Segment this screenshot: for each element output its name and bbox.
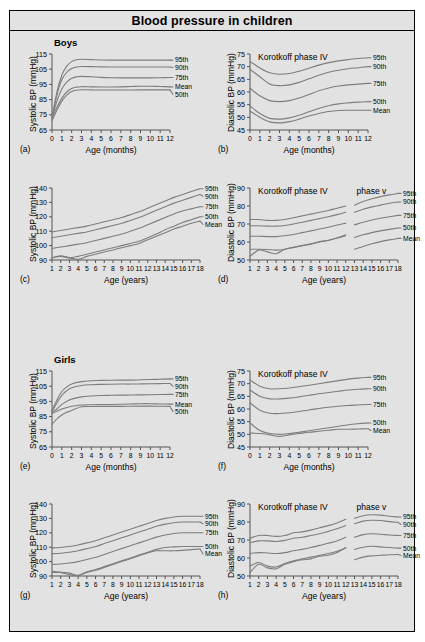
legend-label-95th: 95th: [403, 190, 416, 197]
curve-mean: [52, 404, 170, 414]
svg-text:10: 10: [127, 581, 135, 588]
svg-text:70: 70: [237, 62, 245, 71]
svg-text:70: 70: [237, 536, 245, 545]
svg-text:7: 7: [317, 135, 321, 142]
svg-text:17: 17: [188, 581, 196, 588]
plot-area-d: 506070809012345678910111213141516171895t…: [216, 183, 425, 282]
svg-text:10: 10: [345, 135, 353, 142]
svg-text:100: 100: [35, 241, 47, 250]
svg-text:12: 12: [166, 452, 174, 459]
plot-area-h: 506070809012345678910111213141516171895t…: [216, 499, 425, 598]
svg-text:17: 17: [188, 265, 196, 272]
svg-text:6: 6: [94, 581, 98, 588]
legend-label-mean: Mean: [373, 107, 390, 114]
annotation-korotkoff: Korotkoff phase IV: [258, 186, 328, 196]
svg-text:45: 45: [237, 443, 245, 452]
svg-text:6: 6: [292, 581, 296, 588]
panel-label-d: (d): [218, 274, 228, 284]
svg-text:2: 2: [70, 452, 74, 459]
curve-75th: [250, 403, 368, 414]
svg-text:8: 8: [129, 135, 133, 142]
svg-text:75: 75: [39, 110, 47, 119]
curve-phase5-75th: [354, 215, 398, 225]
svg-text:9: 9: [337, 135, 341, 142]
plot-area-g: 9010011012013014012345678910111213141516…: [18, 499, 246, 598]
svg-text:11: 11: [355, 135, 362, 142]
svg-text:65: 65: [39, 126, 47, 135]
svg-text:13: 13: [153, 265, 161, 272]
legend-label-50th: 50th: [403, 224, 416, 231]
svg-text:75: 75: [39, 427, 47, 436]
curve-95th: [52, 189, 200, 232]
svg-text:3: 3: [278, 135, 282, 142]
svg-text:12: 12: [144, 265, 152, 272]
svg-text:60: 60: [237, 238, 245, 247]
svg-text:50: 50: [237, 256, 245, 265]
svg-text:140: 140: [35, 500, 47, 509]
chart-panel-b: Diastolic BP (mmHg)455055606570750123456…: [216, 49, 414, 166]
svg-text:7: 7: [300, 265, 304, 272]
svg-text:65: 65: [39, 443, 47, 452]
chart-panel-d: Diastolic BP (mmHg)506070809012345678910…: [216, 183, 425, 296]
svg-text:18: 18: [394, 265, 402, 272]
svg-text:85: 85: [39, 95, 47, 104]
panel-label-h: (h): [218, 590, 228, 600]
panel-label-c: (c): [20, 274, 30, 284]
svg-text:2: 2: [268, 135, 272, 142]
svg-text:14: 14: [359, 265, 367, 272]
legend-label-95th: 95th: [403, 513, 416, 520]
curve-phase4-50th: [250, 548, 346, 567]
curve-95th: [52, 516, 200, 548]
panel-label-e: (e): [20, 461, 30, 471]
svg-text:4: 4: [274, 265, 278, 272]
svg-text:1: 1: [60, 135, 64, 142]
legend-label-95th: 95th: [175, 56, 188, 63]
svg-text:6: 6: [109, 452, 113, 459]
curve-phase5-mean: [354, 554, 398, 559]
x-axis-label: Age (years): [250, 591, 398, 601]
curve-90th: [52, 522, 200, 554]
x-axis-label: Age (months): [250, 462, 368, 472]
svg-text:6: 6: [307, 135, 311, 142]
svg-text:2: 2: [268, 452, 272, 459]
svg-text:4: 4: [89, 452, 93, 459]
x-axis-label: Age (years): [52, 591, 200, 601]
legend-label-90th: 90th: [373, 385, 386, 392]
legend-label-90th: 90th: [175, 64, 188, 71]
svg-text:8: 8: [129, 452, 133, 459]
svg-text:15: 15: [170, 265, 178, 272]
svg-text:140: 140: [35, 184, 47, 193]
section-heading-girls: Girls: [54, 354, 76, 365]
svg-text:4: 4: [287, 452, 291, 459]
curve-50th: [52, 406, 170, 424]
curve-90th: [250, 389, 368, 399]
svg-text:1: 1: [50, 265, 54, 272]
svg-text:3: 3: [68, 265, 72, 272]
svg-text:115: 115: [36, 367, 47, 376]
svg-text:50: 50: [237, 430, 245, 439]
svg-text:6: 6: [109, 135, 113, 142]
svg-text:90: 90: [237, 184, 245, 193]
legend-label-75th: 75th: [175, 74, 188, 81]
chart-panel-e: Systolic BP (mmHg)6575859510511501234567…: [18, 366, 216, 483]
svg-text:95: 95: [39, 80, 47, 89]
curve-mean: [52, 86, 170, 118]
chart-panel-a: Systolic BP (mmHg)6575859510511501234567…: [18, 49, 216, 166]
svg-text:2: 2: [257, 265, 261, 272]
svg-text:65: 65: [237, 75, 245, 84]
svg-text:9: 9: [139, 135, 143, 142]
svg-text:12: 12: [342, 581, 350, 588]
annotation-phase-v: phase v: [356, 186, 386, 196]
legend-label-50th: 50th: [373, 419, 386, 426]
legend-label-75th: 75th: [373, 80, 386, 87]
svg-text:13: 13: [351, 581, 359, 588]
curve-50th: [52, 90, 170, 121]
curve-phase4-75th: [250, 223, 346, 237]
svg-text:5: 5: [85, 265, 89, 272]
annotation-korotkoff: Korotkoff phase IV: [258, 52, 328, 62]
section-heading-boys: Boys: [54, 37, 77, 48]
x-axis-label: Age (months): [52, 462, 170, 472]
legend-label-mean: Mean: [403, 235, 420, 242]
svg-text:7: 7: [102, 581, 106, 588]
svg-text:7: 7: [119, 135, 123, 142]
